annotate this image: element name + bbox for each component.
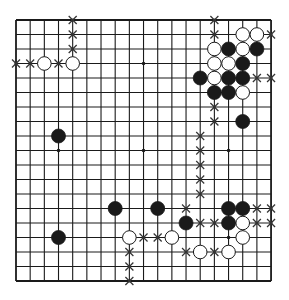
black-stone[interactable] bbox=[108, 202, 122, 216]
black-stone[interactable] bbox=[193, 71, 207, 85]
black-stone[interactable] bbox=[179, 216, 193, 230]
go-board-svg[interactable] bbox=[0, 0, 289, 300]
black-stone[interactable] bbox=[222, 216, 236, 230]
white-stone[interactable] bbox=[208, 42, 222, 56]
black-stone[interactable] bbox=[222, 71, 236, 85]
stones bbox=[38, 28, 264, 259]
star-point bbox=[227, 149, 231, 153]
white-stone[interactable] bbox=[193, 245, 207, 259]
white-stone[interactable] bbox=[222, 245, 236, 259]
white-stone[interactable] bbox=[236, 216, 250, 230]
black-stone[interactable] bbox=[222, 86, 236, 100]
black-stone[interactable] bbox=[236, 202, 250, 216]
black-stone[interactable] bbox=[222, 202, 236, 216]
white-stone[interactable] bbox=[123, 231, 137, 245]
white-stone[interactable] bbox=[236, 231, 250, 245]
star-point bbox=[142, 62, 146, 66]
black-stone[interactable] bbox=[222, 42, 236, 56]
black-stone[interactable] bbox=[250, 42, 264, 56]
white-stone[interactable] bbox=[208, 57, 222, 71]
black-stone[interactable] bbox=[236, 57, 250, 71]
white-stone[interactable] bbox=[236, 42, 250, 56]
white-stone[interactable] bbox=[250, 28, 264, 42]
black-stone[interactable] bbox=[236, 71, 250, 85]
black-stone[interactable] bbox=[207, 86, 221, 100]
black-stone[interactable] bbox=[151, 202, 165, 216]
black-stone[interactable] bbox=[52, 129, 66, 143]
white-stone[interactable] bbox=[208, 71, 222, 85]
white-stone[interactable] bbox=[66, 57, 80, 71]
star-point bbox=[227, 236, 231, 240]
black-stone[interactable] bbox=[236, 115, 250, 129]
black-stone[interactable] bbox=[52, 231, 66, 245]
white-stone[interactable] bbox=[222, 57, 236, 71]
star-point bbox=[57, 149, 61, 153]
white-stone[interactable] bbox=[165, 231, 179, 245]
star-point bbox=[142, 149, 146, 153]
white-stone[interactable] bbox=[38, 57, 52, 71]
white-stone[interactable] bbox=[236, 28, 250, 42]
white-stone[interactable] bbox=[236, 86, 250, 100]
go-board[interactable] bbox=[0, 0, 289, 300]
